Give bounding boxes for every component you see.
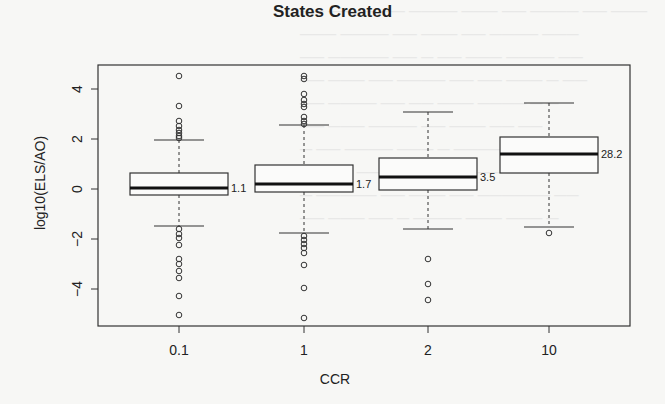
x-tick-label: 0.1 (169, 342, 189, 358)
outlier-point (546, 230, 552, 236)
outlier-point (425, 297, 431, 303)
outlier-point (301, 315, 307, 321)
median-annotation: 1.1 (231, 182, 246, 194)
outlier-point (176, 312, 182, 318)
outlier-point (176, 275, 182, 281)
outlier-point (176, 293, 182, 299)
outlier-point (176, 235, 182, 241)
median-annotation: 28.2 (601, 148, 622, 160)
outlier-point (176, 242, 182, 248)
y-tick-label: −4 (69, 281, 85, 297)
box (255, 165, 353, 192)
y-tick-label: −2 (69, 231, 85, 247)
outlier-point (176, 103, 182, 109)
x-tick-label: 2 (424, 342, 432, 358)
y-tick-label: 4 (69, 85, 85, 93)
x-tick-label: 10 (541, 342, 557, 358)
outlier-point (301, 91, 307, 97)
x-tick-label: 1 (300, 342, 308, 358)
box-plot: −4−20240.112101.11.73.528.2 (0, 0, 665, 404)
median-annotation: 3.5 (480, 171, 495, 183)
box (130, 173, 228, 195)
outlier-point (301, 262, 307, 268)
box (379, 158, 477, 190)
outlier-point (425, 281, 431, 287)
y-tick-label: 0 (69, 185, 85, 193)
median-annotation: 1.7 (356, 178, 371, 190)
outlier-point (176, 73, 182, 79)
y-tick-label: 2 (69, 135, 85, 143)
outlier-point (176, 268, 182, 274)
outlier-point (425, 256, 431, 262)
outlier-point (301, 285, 307, 291)
